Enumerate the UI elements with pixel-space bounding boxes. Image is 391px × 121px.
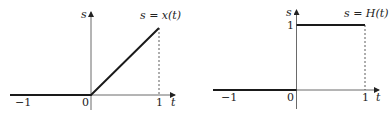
- left-plot: s s = x(t) −1 0 1 t: [10, 8, 181, 110]
- right-tick-neg1: −1: [221, 91, 237, 104]
- right-x-axis-label: t: [376, 91, 381, 104]
- left-tick-0: 0: [82, 96, 89, 109]
- left-x-axis-label: t: [171, 96, 176, 109]
- left-ramp-curve: [10, 28, 159, 95]
- figure: s s = x(t) −1 0 1 t s 1 s = H(t) −1 0 1 …: [0, 0, 391, 121]
- left-tick-1: 1: [156, 96, 163, 109]
- right-y-axis-label: s: [286, 6, 292, 19]
- left-tick-neg1: −1: [15, 96, 31, 109]
- right-ytick-1: 1: [287, 19, 294, 32]
- left-curve-label: s = x(t): [140, 9, 181, 22]
- right-tick-1: 1: [362, 91, 369, 104]
- right-curve-label: s = H(t): [344, 7, 388, 20]
- right-tick-0: 0: [287, 91, 294, 104]
- right-plot: s 1 s = H(t) −1 0 1 t: [213, 6, 388, 109]
- left-y-axis-label: s: [81, 8, 87, 21]
